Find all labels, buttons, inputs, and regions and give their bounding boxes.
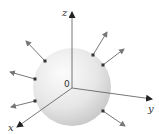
sphere-normals-diagram: z y x 0	[0, 0, 159, 134]
surface-point	[102, 64, 105, 67]
x-axis-label: x	[8, 122, 14, 133]
surface-point	[44, 60, 47, 63]
normal-vector-arrow	[26, 41, 45, 61]
z-axis-label: z	[61, 7, 68, 18]
surface-point	[102, 110, 105, 113]
normal-vector-arrow	[93, 32, 107, 55]
surface-point	[92, 54, 95, 57]
normal-vector-arrow	[10, 72, 35, 79]
y-axis-label: y	[147, 103, 154, 114]
origin-label: 0	[64, 79, 70, 89]
normal-vector-arrow	[11, 101, 35, 107]
surface-point	[34, 100, 37, 103]
normal-vector-arrow	[103, 111, 125, 126]
surface-point	[34, 78, 37, 81]
normal-vector-arrow	[103, 49, 124, 65]
